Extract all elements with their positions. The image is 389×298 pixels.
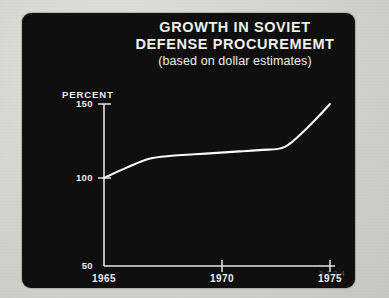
chart-plot-area: 150 100 50 1965 1970 1975 <box>22 13 355 288</box>
y-tick-label-50: 50 <box>82 260 93 271</box>
data-series-line <box>104 104 330 178</box>
scan-artifact-stamp: 3-1-2-4 <box>319 270 345 276</box>
scanned-page: GROWTH IN SOVIET DEFENSE PROCUREMEMT (ba… <box>0 0 389 298</box>
chart-card: GROWTH IN SOVIET DEFENSE PROCUREMEMT (ba… <box>22 13 355 288</box>
y-tick-label-150: 150 <box>76 98 93 109</box>
y-tick-label-100: 100 <box>76 172 93 183</box>
x-tick-label-1970: 1970 <box>210 273 234 284</box>
x-tick-label-1965: 1965 <box>92 273 116 284</box>
